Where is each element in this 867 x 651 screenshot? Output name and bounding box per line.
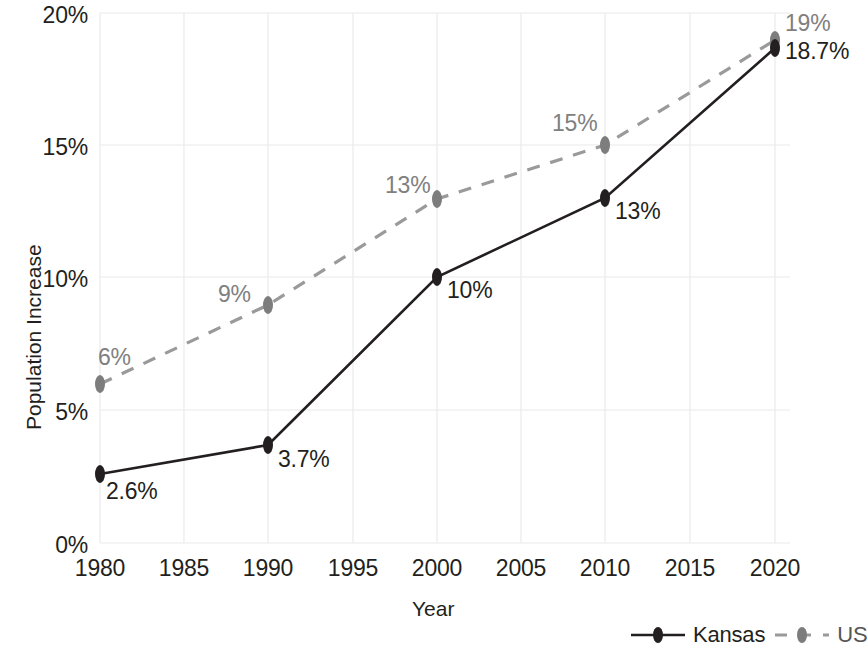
data-label-kansas-2010: 13% xyxy=(615,198,660,225)
legend-entry-us[interactable]: US xyxy=(774,622,867,648)
data-label-kansas-2020: 18.7% xyxy=(785,38,849,65)
y-tick-label-20: 20% xyxy=(0,2,88,29)
data-label-kansas-1990: 3.7% xyxy=(278,446,330,473)
x-axis-title: Year xyxy=(412,597,454,621)
legend-entry-kansas[interactable]: Kansas xyxy=(630,622,765,648)
data-label-us-2020: 19% xyxy=(785,10,830,37)
x-tick-label-2020: 2020 xyxy=(725,555,825,582)
data-label-kansas-2000: 10% xyxy=(447,277,492,304)
data-label-us-2010: 15% xyxy=(552,110,597,137)
y-axis-title: Population Increase xyxy=(22,244,46,430)
legend-swatch-us-icon xyxy=(774,627,830,643)
chart-legend: Kansas US xyxy=(630,622,867,648)
horizontal-gridlines xyxy=(100,13,790,543)
data-label-kansas-1980: 2.6% xyxy=(106,478,158,505)
data-label-us-1980: 6% xyxy=(98,344,131,371)
legend-swatch-kansas-icon xyxy=(630,627,686,643)
data-label-us-1990: 9% xyxy=(218,281,251,308)
y-tick-label-15: 15% xyxy=(0,134,88,161)
legend-label-us: US xyxy=(837,622,867,648)
legend-label-kansas: Kansas xyxy=(693,622,765,648)
data-label-us-2000: 13% xyxy=(385,172,430,199)
